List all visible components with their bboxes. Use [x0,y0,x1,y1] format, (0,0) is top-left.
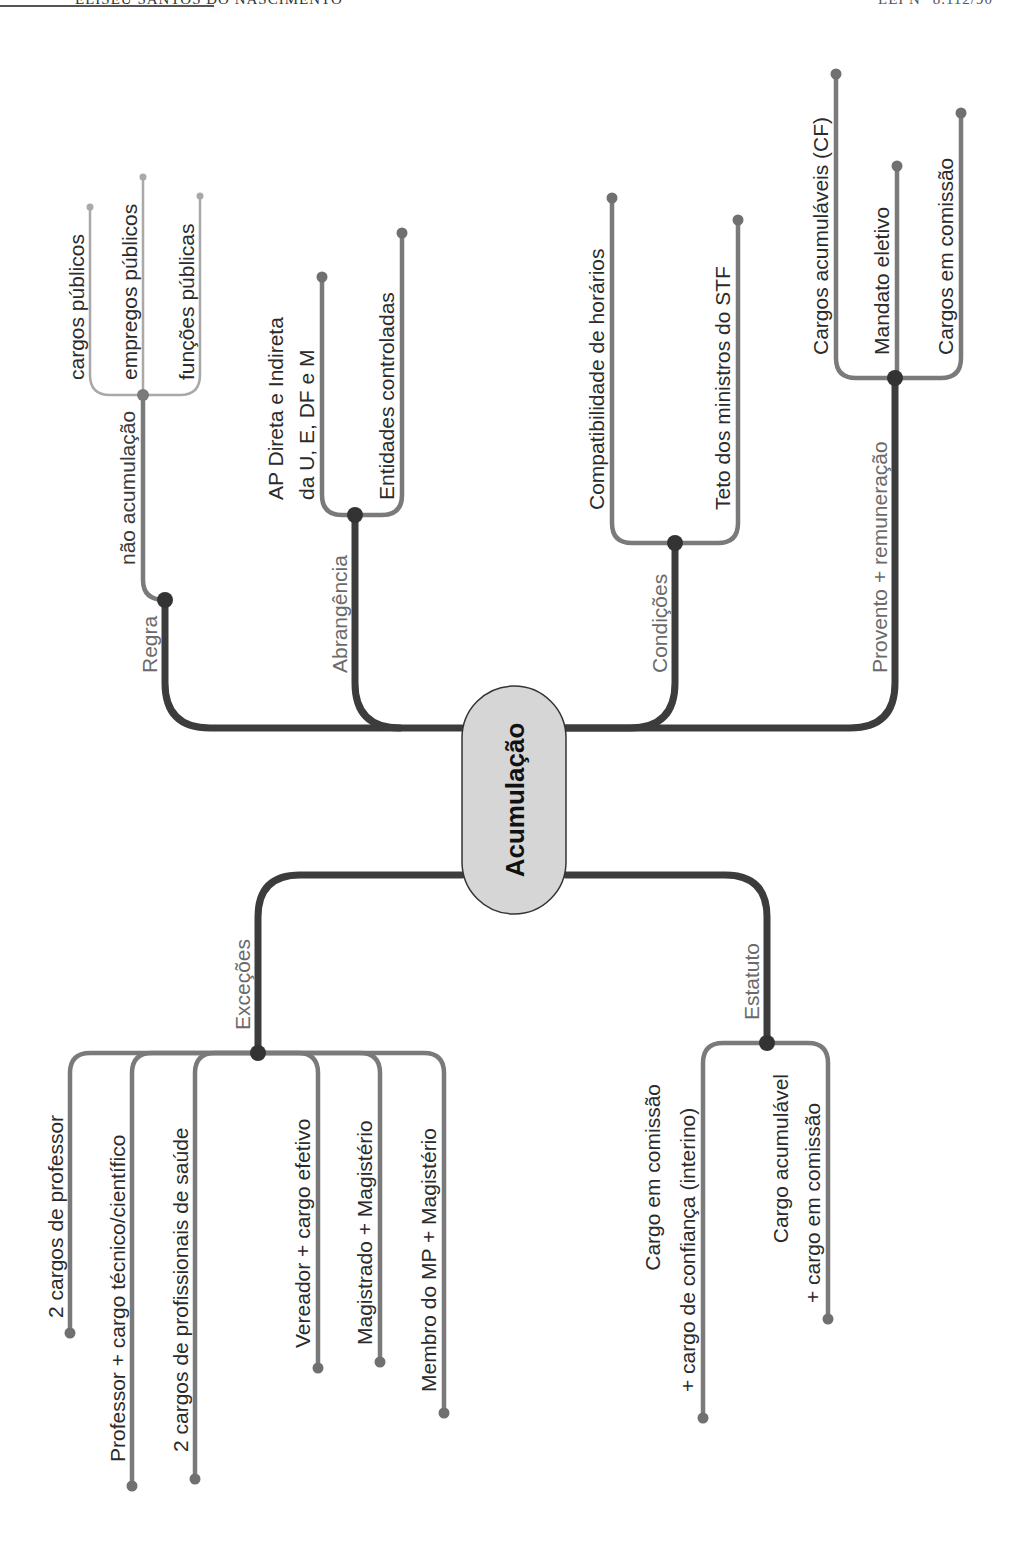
branch-label-estatuto: Estatuto [740,943,763,1020]
branch-label-regra: Regra [138,615,161,673]
leaf-label-cargo-comissao-line1: Cargo em comissão [641,1084,664,1271]
end-dot [823,1314,834,1325]
leaf-profissionais-saude [195,1053,258,1479]
end-dot [317,272,328,283]
leaf-label-teto-stf: Teto dos ministros do STF [711,266,734,510]
leaf-label-compatibilidade: Compatibilidade de horários [585,249,608,511]
end-dot [87,204,94,211]
leaf-label-2-cargos-professor: 2 cargos de professor [44,1115,67,1318]
leaf-label-ap-direta-line2: da U, E, DF e M [295,349,318,500]
leaf-label-vereador: Vereador + cargo efetivo [291,1119,314,1348]
junction-dot-excecoes [250,1045,266,1061]
trunk-excecoes [258,875,462,1053]
leaf-2-cargos-professor [70,1053,258,1333]
leaf-ap-direta [322,277,355,515]
trunk-abrangencia [355,515,400,728]
branch-label-abrangencia: Abrangência [328,555,351,673]
leaf-label-entidades-controladas: Entidades controladas [375,292,398,500]
end-dot [375,1357,386,1368]
leaf-label-cargo-comissao-line2: + cargo de confiança (interino) [676,1108,699,1392]
end-dot [831,69,842,80]
leaf-cargo-comissao-confianca [703,1043,767,1418]
leaf-label-cargo-acumulavel-line2: + cargo em comissão [801,1103,824,1303]
sub-label-nao-acumulacao: não acumulação [116,411,139,565]
trunk-estatuto [566,875,767,1043]
end-dot [892,161,903,172]
end-dot [397,228,408,239]
leaf-label-magistrado: Magistrado + Magistério [353,1120,376,1345]
leaf-label-professor-tecnico: Professor + cargo técnico/científico [106,1135,129,1462]
branch-label-provento: Provento + remuneração [868,441,891,673]
leaf-label-cargos-acumulaveis: Cargos acumuláveis (CF) [809,117,832,355]
leaf-compatibilidade [612,198,675,543]
trunk-regra [165,600,462,728]
branch-nao-acumulacao [143,395,165,600]
branch-label-excecoes: Exceções [231,939,254,1030]
junction-dot-nao-acumulacao [137,389,149,401]
end-dot [698,1413,709,1424]
end-dot [65,1328,76,1339]
junction-dot-regra [157,592,173,608]
central-node-label: Acumulação [500,723,530,878]
leaf-label-cargos-publicos: cargos públicos [65,234,88,380]
end-dot [197,193,204,200]
leaf-label-profissionais-saude: 2 cargos de profissionais de saúde [169,1127,192,1452]
end-dot [140,174,147,181]
junction-dot-condicoes [667,535,683,551]
leaf-label-ap-direta-line1: AP Direta e Indireta [264,317,287,500]
end-dot [956,108,967,119]
end-dot [190,1474,201,1485]
branch-label-condicoes: Condições [648,574,671,673]
junction-dot-provento [887,370,903,386]
junction-dot-estatuto [759,1035,775,1051]
leaf-label-membro-mp: Membro do MP + Magistério [417,1128,440,1392]
junction-dot-abrangencia [347,507,363,523]
leaf-label-cargos-em-comissao: Cargos em comissão [934,158,957,355]
end-dot [733,215,744,226]
end-dot [607,193,618,204]
leaf-label-funcoes-publicas: funções públicas [175,224,198,380]
end-dot [313,1363,324,1374]
end-dot [439,1408,450,1419]
end-dot [127,1481,138,1492]
leaf-label-cargo-acumulavel-line1: Cargo acumulável [769,1074,792,1243]
leaf-label-mandato-eletivo: Mandato eletivo [870,207,893,355]
leaf-label-empregos-publicos: empregos públicos [118,204,141,380]
mind-map: Acumulação Regra Abrangência Condições P… [0,0,1013,1554]
